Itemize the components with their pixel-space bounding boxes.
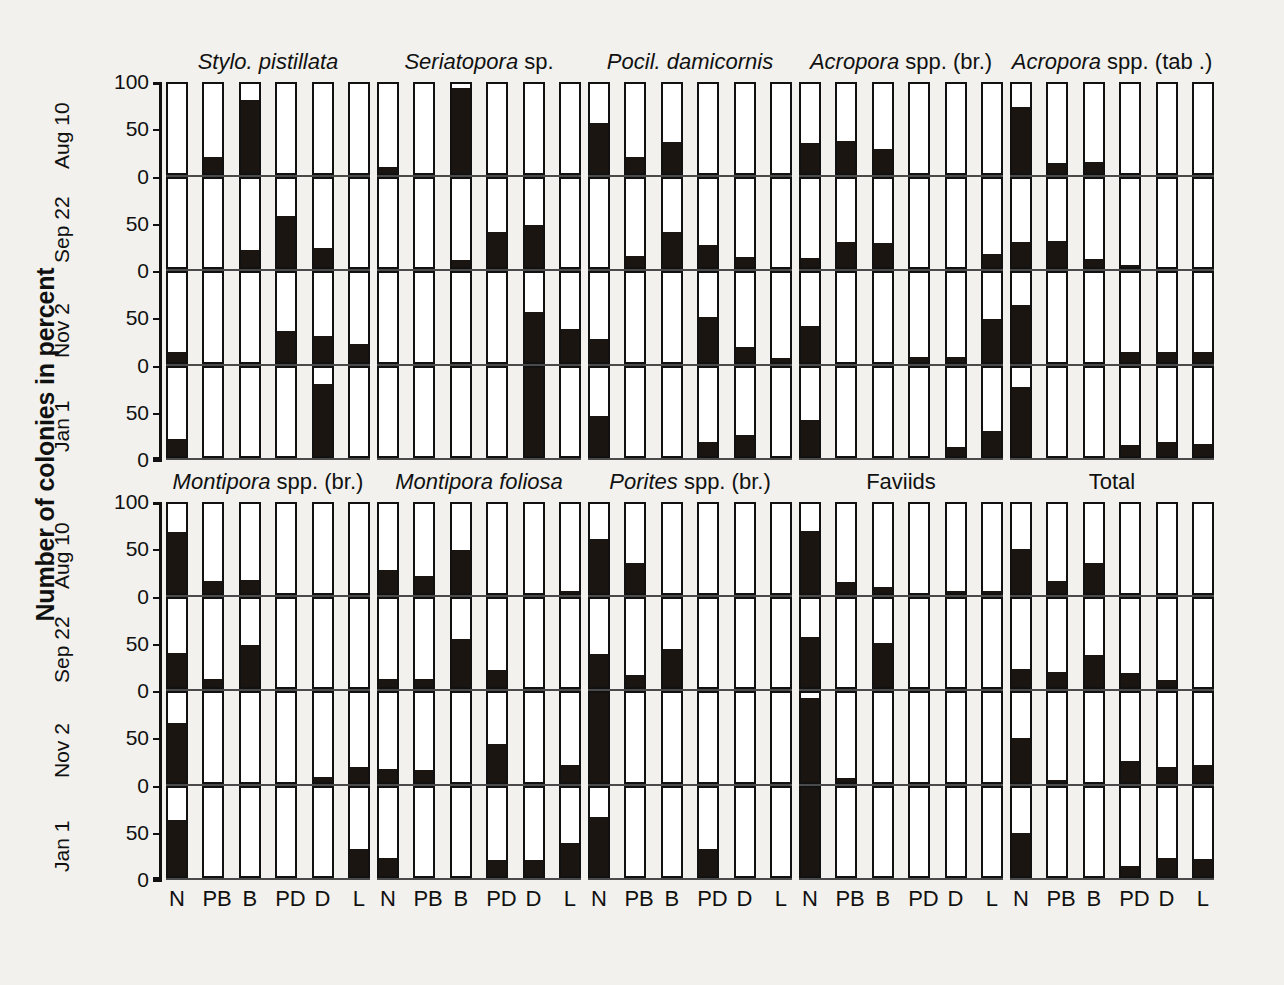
bar-pb[interactable] bbox=[413, 177, 435, 270]
bar-pd[interactable] bbox=[486, 502, 508, 595]
bar-d[interactable] bbox=[1156, 691, 1178, 784]
bar-d[interactable] bbox=[945, 271, 967, 364]
bar-pd[interactable] bbox=[908, 597, 930, 690]
bar-b[interactable] bbox=[661, 82, 683, 175]
bar-d[interactable] bbox=[523, 597, 545, 690]
bar-d[interactable] bbox=[523, 786, 545, 879]
bar-d[interactable] bbox=[734, 786, 756, 879]
bar-pd[interactable] bbox=[697, 691, 719, 784]
bar-l[interactable] bbox=[559, 502, 581, 595]
bar-pb[interactable] bbox=[835, 597, 857, 690]
bar-pd[interactable] bbox=[275, 366, 297, 459]
bar-d[interactable] bbox=[1156, 177, 1178, 270]
bar-n[interactable] bbox=[799, 366, 821, 459]
bar-d[interactable] bbox=[312, 597, 334, 690]
bar-d[interactable] bbox=[945, 597, 967, 690]
bar-pd[interactable] bbox=[275, 82, 297, 175]
bar-pd[interactable] bbox=[1119, 82, 1141, 175]
bar-pb[interactable] bbox=[835, 177, 857, 270]
bar-l[interactable] bbox=[559, 786, 581, 879]
bar-d[interactable] bbox=[523, 691, 545, 784]
bar-l[interactable] bbox=[981, 177, 1003, 270]
bar-d[interactable] bbox=[734, 271, 756, 364]
bar-b[interactable] bbox=[872, 502, 894, 595]
bar-pd[interactable] bbox=[1119, 271, 1141, 364]
bar-pb[interactable] bbox=[202, 366, 224, 459]
bar-l[interactable] bbox=[348, 786, 370, 879]
bar-pd[interactable] bbox=[697, 597, 719, 690]
bar-pd[interactable] bbox=[1119, 691, 1141, 784]
bar-d[interactable] bbox=[1156, 82, 1178, 175]
bar-l[interactable] bbox=[1192, 691, 1214, 784]
bar-pd[interactable] bbox=[486, 366, 508, 459]
bar-d[interactable] bbox=[312, 786, 334, 879]
bar-d[interactable] bbox=[734, 177, 756, 270]
bar-d[interactable] bbox=[523, 366, 545, 459]
bar-pd[interactable] bbox=[1119, 786, 1141, 879]
bar-pd[interactable] bbox=[697, 271, 719, 364]
bar-pb[interactable] bbox=[1046, 177, 1068, 270]
bar-n[interactable] bbox=[166, 597, 188, 690]
bar-d[interactable] bbox=[945, 82, 967, 175]
bar-pb[interactable] bbox=[624, 691, 646, 784]
bar-b[interactable] bbox=[661, 691, 683, 784]
bar-n[interactable] bbox=[166, 502, 188, 595]
bar-n[interactable] bbox=[799, 597, 821, 690]
bar-d[interactable] bbox=[945, 366, 967, 459]
bar-l[interactable] bbox=[1192, 177, 1214, 270]
bar-d[interactable] bbox=[1156, 366, 1178, 459]
bar-l[interactable] bbox=[770, 786, 792, 879]
bar-pb[interactable] bbox=[835, 82, 857, 175]
bar-l[interactable] bbox=[981, 366, 1003, 459]
bar-l[interactable] bbox=[981, 786, 1003, 879]
bar-pb[interactable] bbox=[1046, 691, 1068, 784]
bar-d[interactable] bbox=[1156, 502, 1178, 595]
bar-d[interactable] bbox=[1156, 597, 1178, 690]
bar-n[interactable] bbox=[588, 691, 610, 784]
bar-b[interactable] bbox=[450, 597, 472, 690]
bar-l[interactable] bbox=[348, 271, 370, 364]
bar-b[interactable] bbox=[872, 691, 894, 784]
bar-pb[interactable] bbox=[1046, 597, 1068, 690]
bar-d[interactable] bbox=[945, 177, 967, 270]
bar-d[interactable] bbox=[734, 597, 756, 690]
bar-n[interactable] bbox=[588, 502, 610, 595]
bar-pb[interactable] bbox=[624, 502, 646, 595]
bar-pb[interactable] bbox=[835, 691, 857, 784]
bar-pb[interactable] bbox=[202, 177, 224, 270]
bar-n[interactable] bbox=[166, 82, 188, 175]
bar-b[interactable] bbox=[872, 366, 894, 459]
bar-l[interactable] bbox=[770, 366, 792, 459]
bar-pd[interactable] bbox=[697, 502, 719, 595]
bar-pb[interactable] bbox=[624, 366, 646, 459]
bar-pb[interactable] bbox=[835, 366, 857, 459]
bar-b[interactable] bbox=[872, 271, 894, 364]
bar-d[interactable] bbox=[734, 502, 756, 595]
bar-l[interactable] bbox=[981, 597, 1003, 690]
bar-pb[interactable] bbox=[835, 786, 857, 879]
bar-n[interactable] bbox=[377, 502, 399, 595]
bar-b[interactable] bbox=[1083, 502, 1105, 595]
bar-n[interactable] bbox=[588, 82, 610, 175]
bar-l[interactable] bbox=[770, 502, 792, 595]
bar-pd[interactable] bbox=[1119, 177, 1141, 270]
bar-pd[interactable] bbox=[908, 82, 930, 175]
bar-pd[interactable] bbox=[697, 786, 719, 879]
bar-b[interactable] bbox=[1083, 82, 1105, 175]
bar-l[interactable] bbox=[348, 597, 370, 690]
bar-d[interactable] bbox=[1156, 786, 1178, 879]
bar-b[interactable] bbox=[1083, 597, 1105, 690]
bar-pd[interactable] bbox=[486, 597, 508, 690]
bar-pb[interactable] bbox=[835, 502, 857, 595]
bar-b[interactable] bbox=[1083, 177, 1105, 270]
bar-b[interactable] bbox=[1083, 271, 1105, 364]
bar-d[interactable] bbox=[312, 271, 334, 364]
bar-pd[interactable] bbox=[486, 691, 508, 784]
bar-n[interactable] bbox=[799, 786, 821, 879]
bar-b[interactable] bbox=[450, 271, 472, 364]
bar-l[interactable] bbox=[559, 366, 581, 459]
bar-d[interactable] bbox=[734, 691, 756, 784]
bar-pb[interactable] bbox=[202, 82, 224, 175]
bar-pb[interactable] bbox=[835, 271, 857, 364]
bar-b[interactable] bbox=[872, 177, 894, 270]
